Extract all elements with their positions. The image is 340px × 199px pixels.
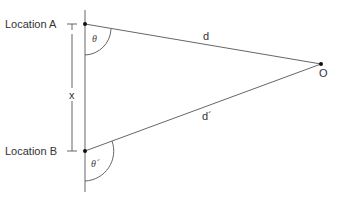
point-o-label: O (319, 67, 328, 79)
angle-theta-prime-arc (85, 141, 114, 181)
segment-d-label: d (203, 30, 209, 42)
angle-theta-prime-label: θ´ (91, 158, 100, 169)
location-b-label: Location B (5, 145, 57, 157)
point-o (319, 62, 323, 66)
point-b (83, 149, 87, 153)
triangulation-diagram: x Location A Location B O d d´ θ θ´ (0, 0, 340, 199)
segment-d-prime (85, 64, 321, 151)
angle-theta-arc (85, 29, 111, 55)
segment-d-prime-label: d´ (202, 110, 212, 122)
point-a (83, 22, 87, 26)
angle-theta-label: θ (92, 33, 97, 44)
segment-x-label: x (69, 89, 75, 101)
location-a-label: Location A (5, 18, 57, 30)
